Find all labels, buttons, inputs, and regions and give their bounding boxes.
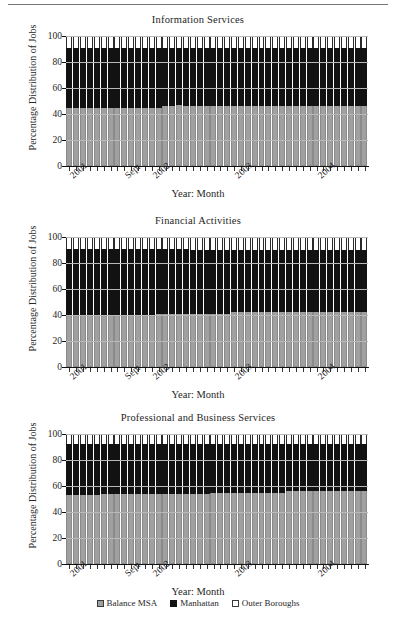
bar-segment-manhattan <box>231 250 237 312</box>
bar-segment-outer-boroughs <box>259 36 265 48</box>
bar-segment-outer-boroughs <box>162 434 168 444</box>
bar-segment-manhattan <box>300 250 306 312</box>
y-tick-mark <box>62 114 66 115</box>
y-tick-mark <box>62 434 66 435</box>
bar-segment-outer-boroughs <box>341 434 347 444</box>
bar <box>101 237 107 367</box>
black-swatch-icon <box>170 600 177 607</box>
x-tick-mark <box>296 167 297 171</box>
bar-segment-manhattan <box>80 48 86 108</box>
bar-segment-manhattan <box>307 250 313 312</box>
bar-segment-balance-msa <box>245 312 251 367</box>
bar-group <box>66 36 368 166</box>
bar <box>238 434 244 564</box>
x-tick-mark <box>303 565 304 569</box>
x-tick-mark <box>90 368 91 372</box>
x-tick-mark <box>351 368 352 372</box>
y-tick-label: 100 <box>36 31 62 41</box>
bar-segment-balance-msa <box>204 494 210 564</box>
bar-segment-outer-boroughs <box>204 36 210 48</box>
bar <box>224 434 230 564</box>
bar-segment-outer-boroughs <box>252 36 258 48</box>
bar-segment-outer-boroughs <box>334 434 340 444</box>
legend-item: Outer Boroughs <box>232 598 300 608</box>
bar-segment-outer-boroughs <box>94 434 100 444</box>
bar-segment-outer-boroughs <box>231 237 237 250</box>
bar-segment-manhattan <box>94 444 100 495</box>
bar <box>224 237 230 367</box>
bar-segment-balance-msa <box>334 491 340 564</box>
bar-segment-manhattan <box>73 444 79 495</box>
gridline <box>66 263 368 264</box>
bar-segment-outer-boroughs <box>361 434 367 444</box>
bar <box>245 237 251 367</box>
bar <box>87 237 93 367</box>
bar-segment-balance-msa <box>156 108 162 167</box>
bar <box>142 36 148 166</box>
bar-segment-outer-boroughs <box>101 237 107 249</box>
bar <box>80 36 86 166</box>
bar <box>238 36 244 166</box>
bar-segment-balance-msa <box>320 106 326 166</box>
bar-segment-outer-boroughs <box>279 36 285 48</box>
bar-segment-outer-boroughs <box>142 434 148 444</box>
bar-segment-balance-msa <box>135 494 141 564</box>
bar-segment-balance-msa <box>348 312 354 367</box>
gridline <box>66 341 368 342</box>
bar-segment-outer-boroughs <box>149 434 155 444</box>
bar <box>135 36 141 166</box>
gridline <box>66 538 368 539</box>
bar-segment-manhattan <box>169 249 175 314</box>
bar-segment-balance-msa <box>73 108 79 167</box>
x-tick-mark <box>207 368 208 372</box>
bar-segment-outer-boroughs <box>162 237 168 249</box>
bar <box>265 237 271 367</box>
gray-swatch-icon <box>97 600 104 607</box>
y-tick-mark <box>62 460 66 461</box>
bar-segment-balance-msa <box>156 494 162 564</box>
bar <box>224 36 230 166</box>
bar <box>286 36 292 166</box>
y-tick-label: 20 <box>36 336 62 346</box>
bar-segment-manhattan <box>94 249 100 317</box>
bar-segment-balance-msa <box>162 494 168 564</box>
x-tick-mark <box>145 167 146 171</box>
bar <box>348 434 354 564</box>
y-tick-label: 40 <box>36 310 62 320</box>
y-tick-label: 20 <box>36 533 62 543</box>
bar-segment-outer-boroughs <box>135 36 141 48</box>
bar <box>307 36 313 166</box>
bar-segment-outer-boroughs <box>293 36 299 48</box>
bar <box>66 237 72 367</box>
bar-segment-balance-msa <box>183 494 189 564</box>
bar-segment-balance-msa <box>286 491 292 564</box>
x-tick-mark <box>104 167 105 171</box>
bar-segment-balance-msa <box>265 312 271 367</box>
bar <box>252 434 258 564</box>
bar-segment-balance-msa <box>320 491 326 564</box>
bar-segment-balance-msa <box>327 491 333 564</box>
gridline <box>66 512 368 513</box>
bar-segment-outer-boroughs <box>210 434 216 444</box>
bar <box>73 434 79 564</box>
x-tick-mark <box>262 565 263 569</box>
bar <box>114 237 120 367</box>
bar-segment-outer-boroughs <box>355 237 361 250</box>
bar-segment-outer-boroughs <box>320 434 326 444</box>
x-tick-mark <box>358 565 359 569</box>
y-tick-label: 20 <box>36 135 62 145</box>
gridline <box>66 460 368 461</box>
bar-segment-manhattan <box>355 250 361 312</box>
bar-segment-outer-boroughs <box>162 36 168 48</box>
x-tick-mark <box>111 368 112 372</box>
gridline <box>66 114 368 115</box>
bar-segment-outer-boroughs <box>87 434 93 444</box>
bar-segment-outer-boroughs <box>334 36 340 48</box>
bar-segment-balance-msa <box>169 494 175 564</box>
bar-segment-outer-boroughs <box>361 36 367 48</box>
x-tick-mark <box>344 565 345 569</box>
gridline <box>66 434 368 435</box>
x-tick-mark <box>337 368 338 372</box>
bar <box>210 36 216 166</box>
bar <box>300 36 306 166</box>
